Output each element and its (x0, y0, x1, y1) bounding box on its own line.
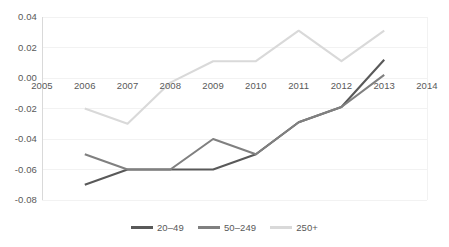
y-tick-label: -0.06 (15, 164, 37, 175)
chart-legend: 20–4950–249250+ (0, 219, 449, 235)
plot-area (0, 0, 449, 247)
y-tick-label: -0.04 (15, 133, 37, 144)
legend-swatch-icon (131, 226, 153, 229)
legend-label: 250+ (296, 222, 318, 233)
legend-label: 50–249 (224, 222, 256, 233)
y-tick-label: -0.02 (15, 103, 37, 114)
legend-swatch-icon (198, 226, 220, 229)
y-tick-label: -0.08 (15, 194, 37, 205)
y-tick-label: 0.02 (18, 42, 37, 53)
series-lines (85, 31, 384, 185)
legend-item[interactable]: 20–49 (131, 222, 184, 233)
legend-swatch-icon (270, 226, 292, 229)
legend-label: 20–49 (157, 222, 184, 233)
x-tick-label: 2014 (402, 80, 449, 91)
gridlines (42, 17, 427, 200)
line-chart: 0.040.020.00-0.02-0.04-0.06-0.08 2005200… (0, 0, 449, 247)
legend-item[interactable]: 50–249 (198, 222, 256, 233)
y-tick-label: 0.04 (18, 11, 37, 22)
legend-item[interactable]: 250+ (270, 222, 318, 233)
series-line (85, 31, 384, 124)
